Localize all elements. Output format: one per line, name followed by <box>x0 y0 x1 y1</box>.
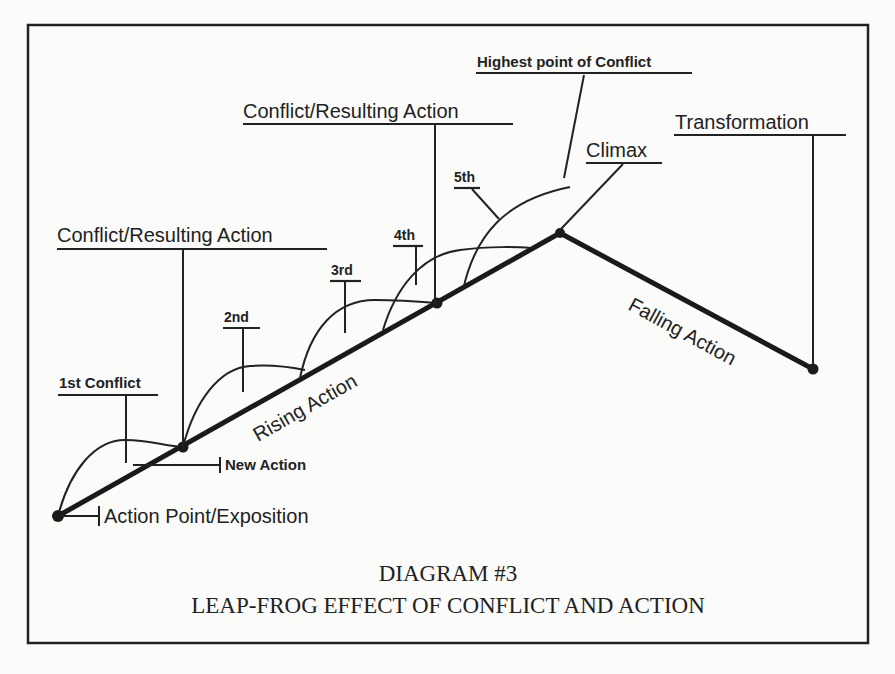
label-highest-point: Highest point of Conflict <box>477 53 651 70</box>
label-third: 3rd <box>331 262 353 278</box>
label-falling-action: Falling Action <box>625 293 740 369</box>
plot-diagram: Conflict/Resulting Action Highest point … <box>0 0 895 674</box>
label-conflict-resulting-action-upper: Conflict/Resulting Action <box>243 100 459 122</box>
leader-highest-point <box>564 75 584 178</box>
leader-climax <box>560 164 623 230</box>
label-second: 2nd <box>224 309 249 325</box>
leader-fifth <box>472 189 499 219</box>
label-action-point: Action Point/Exposition <box>104 505 309 527</box>
resulting-action-point <box>432 298 443 309</box>
label-new-action: New Action <box>225 456 306 473</box>
label-climax: Climax <box>586 139 647 161</box>
falling-action-line <box>560 233 813 369</box>
label-rising-action: Rising Action <box>249 369 360 445</box>
label-first-conflict: 1st Conflict <box>59 374 141 391</box>
caption-title: DIAGRAM #3 <box>379 561 518 586</box>
label-transformation: Transformation <box>675 111 809 133</box>
caption-subtitle: LEAP-FROG EFFECT OF CONFLICT AND ACTION <box>191 593 705 618</box>
label-conflict-resulting-action-lower: Conflict/Resulting Action <box>57 224 273 246</box>
label-fifth: 5th <box>454 169 475 185</box>
label-fourth: 4th <box>394 227 415 243</box>
